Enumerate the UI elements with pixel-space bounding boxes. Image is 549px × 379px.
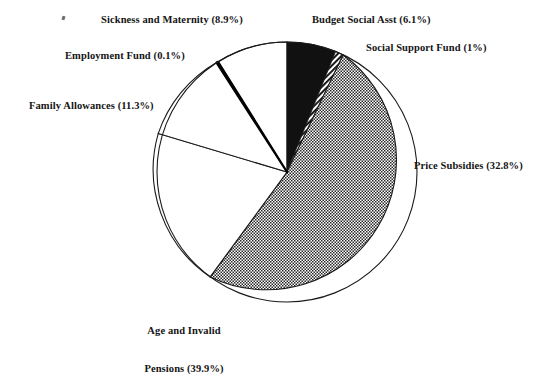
pie-label-price-subsidies: Price Subsidies (32.8%): [414, 160, 523, 173]
pie-label-employment-fund: Employment Fund (0.1%): [65, 50, 185, 63]
pie-label-social-support-fund: Social Support Fund (1%): [366, 42, 487, 55]
pie-label-budget-social-asst: Budget Social Asst (6.1%): [312, 14, 431, 27]
pie-label-sickness-and-maternity: Sickness and Maternity (8.9%): [101, 14, 243, 27]
pie-label-family-allowances: Family Allowances (11.3%): [29, 100, 154, 113]
pie-label-age-and-invalid-pensions-line1: Age and Invalid: [124, 325, 244, 338]
pie-label-age-and-invalid-pensions: Age and Invalid Pensions (39.9%): [124, 300, 244, 379]
pie-label-age-and-invalid-pensions-line2: Pensions (39.9%): [124, 363, 244, 376]
